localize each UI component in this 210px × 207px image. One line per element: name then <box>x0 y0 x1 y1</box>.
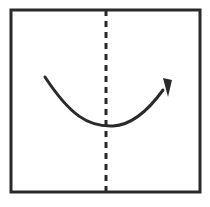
fold-diagram <box>0 0 210 207</box>
fold-arrow-curve <box>45 77 163 126</box>
arrowhead-icon <box>163 78 172 97</box>
